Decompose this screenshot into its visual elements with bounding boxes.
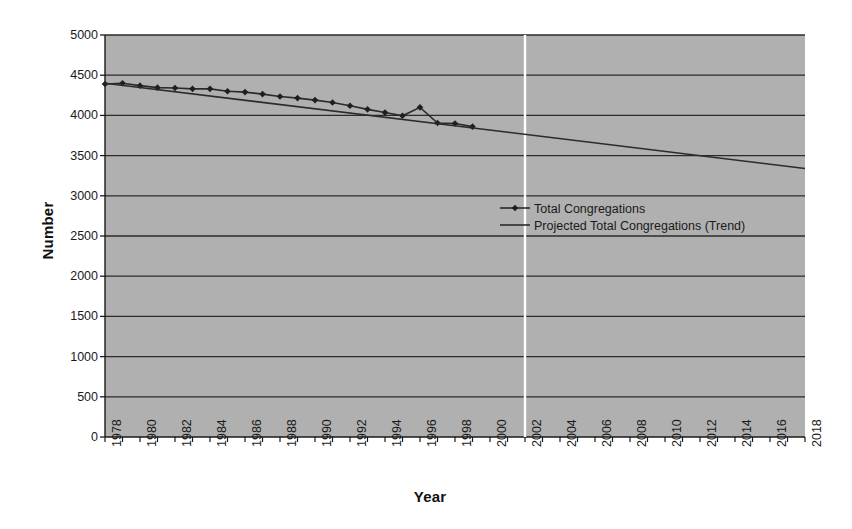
- x-axis-tick-label: 1982: [180, 419, 194, 447]
- x-axis-tick-label: 1980: [145, 419, 159, 447]
- x-axis-tick-label: 1986: [250, 419, 264, 447]
- x-axis-tick-label: 2010: [670, 419, 684, 447]
- x-axis-tick-label: 2006: [600, 419, 614, 447]
- chart-container: Number Year 0500100015002000250030003500…: [0, 0, 852, 529]
- x-axis-tick-label: 1984: [215, 419, 229, 447]
- x-axis-tick-label: 2014: [740, 419, 754, 447]
- x-axis-tick-label: 1998: [460, 419, 474, 447]
- x-axis-tick-label: 2012: [705, 419, 719, 447]
- x-axis-tick-label: 2004: [565, 419, 579, 447]
- x-axis-tick-label: 1994: [390, 419, 404, 447]
- x-axis-tick-label: 2002: [530, 419, 544, 447]
- x-axis-tick-label: 2000: [495, 419, 509, 447]
- x-axis-tick-label: 1990: [320, 419, 334, 447]
- x-axis-tick-label: 1992: [355, 419, 369, 447]
- x-axis-tick-label: 1978: [110, 419, 124, 447]
- x-axis-tick-label: 2008: [635, 419, 649, 447]
- x-axis-tick-labels: 1978198019821984198619881990199219941996…: [0, 0, 852, 529]
- x-axis-tick-label: 1996: [425, 419, 439, 447]
- x-axis-tick-label: 2018: [810, 419, 824, 447]
- x-axis-tick-label: 1988: [285, 419, 299, 447]
- x-axis-tick-label: 2016: [775, 419, 789, 447]
